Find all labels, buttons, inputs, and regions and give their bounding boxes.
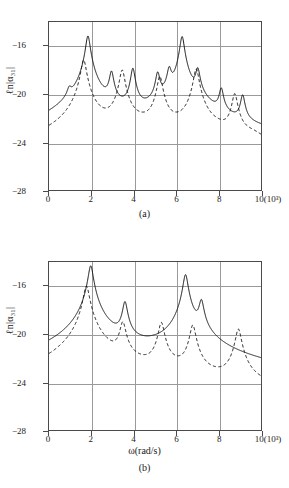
panel-caption-a: (a) bbox=[0, 208, 289, 219]
x-tick-label-b-5: 10(10³) bbox=[255, 434, 282, 444]
y-tick-label-a-2: −24 bbox=[0, 139, 26, 148]
curve-b-dashed bbox=[49, 286, 262, 377]
x-axis-scale-suffix-a: (10³) bbox=[264, 194, 282, 204]
x-tick-label-a-5: 10(10³) bbox=[255, 194, 282, 204]
y-tick-label-b-2: −24 bbox=[0, 379, 26, 388]
curves-panel-b bbox=[49, 262, 262, 431]
x-tick-label-a-5-value: 10 bbox=[255, 194, 264, 204]
y-tick-label-b-3: −28 bbox=[0, 427, 26, 436]
x-tick-label-a-0: 0 bbox=[46, 194, 51, 204]
y-axis-label-a: ℓn|α₃₁| bbox=[4, 49, 15, 113]
x-tick-label-b-2: 4 bbox=[131, 434, 136, 444]
curve-a-dashed bbox=[49, 60, 262, 135]
x-tick-label-a-2: 4 bbox=[131, 194, 136, 204]
x-tick-label-b-3: 6 bbox=[174, 434, 179, 444]
y-axis-label-b: ℓn|α₃₁| bbox=[4, 289, 15, 353]
curves-panel-a bbox=[49, 22, 262, 191]
x-tick-label-b-4: 8 bbox=[217, 434, 222, 444]
x-tick-label-b-0: 0 bbox=[46, 434, 51, 444]
x-tick-label-a-4: 8 bbox=[217, 194, 222, 204]
x-axis-label-b: ω(rad/s) bbox=[0, 445, 289, 456]
x-axis-scale-suffix-b: (10³) bbox=[264, 434, 282, 444]
y-tick-label-a-3: −28 bbox=[0, 187, 26, 196]
y-tick-label-b-0: −16 bbox=[0, 281, 26, 290]
y-tick-label-b-1: −20 bbox=[0, 330, 26, 339]
y-tick-label-a-0: −16 bbox=[0, 41, 26, 50]
y-tick-label-a-1: −20 bbox=[0, 90, 26, 99]
x-tick-label-a-3: 6 bbox=[174, 194, 179, 204]
panel-caption-b: (b) bbox=[0, 462, 289, 473]
panel-b: ℓn|α₃₁| −16 −20 −24 −28 0 2 4 6 8 10(10 bbox=[0, 240, 289, 480]
panel-a: ℓn|α₃₁| −16 −20 −24 −28 0 2 4 6 8 10(10 bbox=[0, 0, 289, 240]
x-tick-label-b-1: 2 bbox=[89, 434, 94, 444]
plot-area-a bbox=[48, 21, 262, 191]
plot-area-b bbox=[48, 261, 262, 431]
x-tick-label-b-5-value: 10 bbox=[255, 434, 264, 444]
figure-container: ℓn|α₃₁| −16 −20 −24 −28 0 2 4 6 8 10(10 bbox=[0, 0, 289, 488]
x-tick-label-a-1: 2 bbox=[89, 194, 94, 204]
